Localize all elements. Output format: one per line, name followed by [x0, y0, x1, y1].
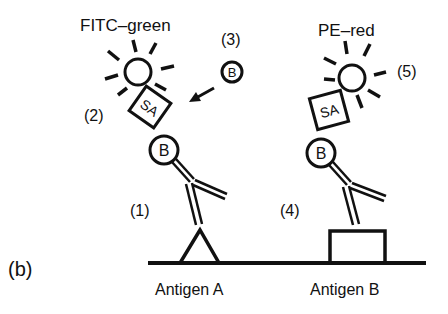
panel-label: (b) [8, 258, 32, 280]
step-2-label: (2) [84, 107, 104, 124]
biotin-free-label: B [228, 65, 237, 80]
biotin-1-label: B [159, 142, 170, 159]
fitc-fluorophore-icon [105, 40, 174, 95]
biotin-2-label: B [316, 145, 327, 162]
pe-label: PE–red [318, 21, 375, 40]
pe-fluorophore-icon [324, 41, 386, 108]
antibody-1-icon [172, 159, 227, 225]
arrow-icon [189, 88, 214, 102]
antigen-b-shape [330, 231, 385, 263]
diagram-canvas: FITC–green PE–red (3) (2) (5) (1) (4) B … [0, 0, 448, 314]
step-5-label: (5) [397, 63, 417, 80]
fitc-label: FITC–green [80, 16, 171, 35]
sa-2-label: SA [318, 101, 341, 121]
step-4-label: (4) [280, 202, 300, 219]
antigen-a-label: Antigen A [155, 281, 224, 298]
step-1-label: (1) [130, 202, 150, 219]
antigen-b-label: Antigen B [310, 281, 379, 298]
step-3-label: (3) [221, 31, 241, 48]
antibody-2-icon [329, 162, 386, 225]
antigen-a-shape [180, 230, 219, 263]
sa-1-label: SA [137, 96, 162, 120]
